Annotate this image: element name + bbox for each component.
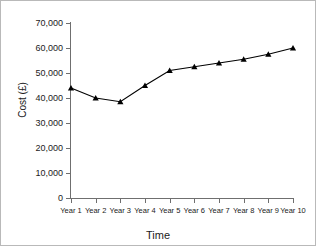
y-axis-title: Cost (£) — [17, 82, 28, 118]
y-tick-label: 10,000 — [35, 168, 63, 178]
x-tick-label: Year 3 — [110, 206, 131, 215]
x-tick-mark — [96, 198, 97, 203]
x-tick-label: Year 8 — [233, 206, 254, 215]
x-tick-mark — [145, 198, 146, 203]
data-point-marker — [68, 85, 74, 91]
x-tick-label: Year 7 — [208, 206, 229, 215]
x-axis-line — [70, 198, 294, 199]
y-tick-label: 70,000 — [35, 18, 63, 28]
series-line — [71, 48, 293, 102]
x-tick-mark — [293, 198, 294, 203]
x-tick-label: Year 5 — [159, 206, 180, 215]
data-point-marker — [142, 82, 148, 88]
x-tick-mark — [170, 198, 171, 203]
x-tick-label: Year 4 — [134, 206, 155, 215]
x-tick-label: Year 9 — [258, 206, 279, 215]
y-tick-label: 30,000 — [35, 118, 63, 128]
y-tick-label: 0 — [58, 193, 63, 203]
x-tick-mark — [120, 198, 121, 203]
x-tick-label: Year 10 — [280, 206, 306, 215]
x-tick-mark — [244, 198, 245, 203]
x-axis-title: Time — [1, 229, 315, 241]
plot-area: 010,00020,00030,00040,00050,00060,00070,… — [71, 23, 293, 198]
data-point-marker — [290, 45, 296, 51]
data-series — [71, 23, 293, 198]
x-tick-mark — [268, 198, 269, 203]
x-tick-mark — [219, 198, 220, 203]
y-tick-label: 40,000 — [35, 93, 63, 103]
y-tick-label: 20,000 — [35, 143, 63, 153]
y-tick-label: 50,000 — [35, 68, 63, 78]
x-tick-mark — [194, 198, 195, 203]
x-tick-label: Year 6 — [184, 206, 205, 215]
x-tick-mark — [71, 198, 72, 203]
x-tick-label: Year 2 — [85, 206, 106, 215]
x-tick-label: Year 1 — [60, 206, 81, 215]
chart-figure: Cost (£) Time 010,00020,00030,00040,0005… — [0, 0, 316, 246]
y-tick-label: 60,000 — [35, 43, 63, 53]
